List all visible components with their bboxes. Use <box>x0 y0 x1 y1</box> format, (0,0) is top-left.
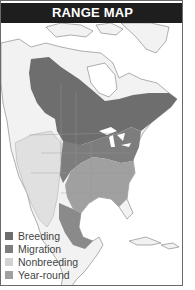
legend-label: Nonbreeding <box>18 256 78 268</box>
legend-label: Year-round <box>18 269 70 281</box>
legend-item-year-round: Year-round <box>5 268 78 281</box>
gulf-of-mexico <box>85 209 125 235</box>
range-map-panel: RANGE MAP <box>0 0 183 286</box>
legend-item-migration: Migration <box>5 242 78 255</box>
legend-item-breeding: Breeding <box>5 229 78 242</box>
page-title: RANGE MAP <box>1 3 183 23</box>
migration-swatch <box>5 245 13 253</box>
nonbreeding-range <box>15 131 61 227</box>
nonbreeding-swatch <box>5 258 13 266</box>
legend: Breeding Migration Nonbreeding Year-roun… <box>5 229 78 281</box>
legend-label: Migration <box>18 243 61 255</box>
breeding-swatch <box>5 232 13 240</box>
legend-label: Breeding <box>18 230 60 242</box>
year-round-swatch <box>5 271 13 279</box>
legend-item-nonbreeding: Nonbreeding <box>5 255 78 268</box>
